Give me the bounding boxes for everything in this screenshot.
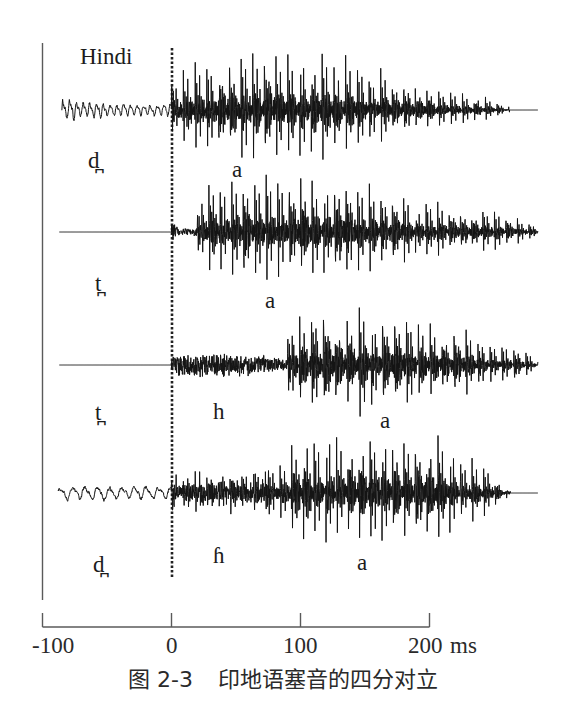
x-tick-label: 100: [283, 634, 318, 657]
segment-label: d̪: [93, 553, 105, 576]
waveform-row-3: [59, 308, 538, 417]
segment-label: a: [357, 551, 367, 574]
waveform-row-1: [62, 54, 538, 160]
figure-caption: 印地语塞音的四分对立: [218, 668, 438, 692]
x-axis-unit-label: ms: [450, 634, 477, 657]
waveform-row-4: [58, 436, 538, 543]
figure: Hindi d̪ a t̪ a t̪ h a d̪ ɦ a -100 0 100…: [0, 0, 570, 726]
time-axis-ticks: [43, 613, 430, 627]
figure-number: 图 2-3: [128, 668, 193, 692]
segment-label: d̪: [88, 149, 100, 172]
x-tick-label: -100: [32, 634, 74, 657]
segment-label: t̪: [95, 401, 101, 424]
waveform-plot: [0, 0, 570, 726]
segment-label: t̪: [95, 272, 101, 295]
segment-label: ɦ: [213, 544, 225, 567]
segment-label: a: [380, 409, 390, 432]
x-tick-label: 200: [408, 634, 443, 657]
language-label: Hindi: [80, 45, 132, 68]
waveform-row-2: [59, 175, 538, 280]
x-tick-label: 0: [166, 634, 178, 657]
segment-label: a: [232, 158, 242, 181]
segment-label: a: [265, 289, 275, 312]
segment-label: h: [213, 400, 225, 423]
